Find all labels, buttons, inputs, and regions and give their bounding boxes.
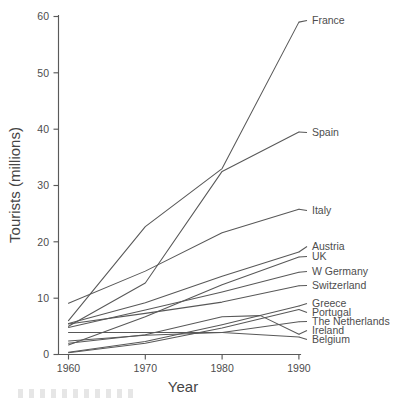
- tourists-line-chart: 0 10 20 30 40 50 60 1960 1970 1980 1990 …: [0, 0, 398, 403]
- series-line-spain: [69, 132, 299, 326]
- axis-lines: [59, 16, 301, 355]
- x-tick-labels: 1960 1970 1980 1990: [57, 362, 311, 374]
- series-line-france: [69, 22, 299, 321]
- scan-artifact: [18, 389, 138, 398]
- leader-line-spain: [299, 132, 307, 133]
- y-tick-label: 40: [37, 123, 49, 135]
- series-label-w-germany: W Germany: [312, 265, 369, 277]
- y-tick-label: 0: [43, 348, 49, 360]
- y-tick-label: 50: [37, 67, 49, 79]
- y-tick-label: 10: [37, 292, 49, 304]
- x-axis-title: Year: [168, 378, 198, 395]
- leader-line-france: [299, 21, 307, 23]
- leader-line-greece: [299, 304, 307, 307]
- chart-canvas: 0 10 20 30 40 50 60 1960 1970 1980 1990 …: [0, 0, 398, 403]
- series-layer: [69, 21, 308, 353]
- leader-line-portugal: [299, 309, 307, 312]
- series-labels-layer: FranceSpainItalyAustriaUKW GermanySwitze…: [312, 14, 390, 345]
- series-line-austria: [69, 252, 299, 324]
- series-label-uk: UK: [312, 250, 327, 262]
- series-line-greece: [69, 306, 299, 352]
- series-line-portugal: [69, 309, 299, 352]
- leader-line-ireland: [299, 331, 307, 335]
- series-label-switzerland: Switzerland: [312, 279, 366, 291]
- leader-line-italy: [299, 209, 307, 210]
- x-tick-label: 1980: [210, 362, 234, 374]
- y-axis-title: Tourists (millions): [6, 127, 23, 243]
- leader-line-uk: [299, 257, 307, 258]
- series-label-france: France: [312, 14, 345, 26]
- series-label-spain: Spain: [312, 126, 339, 138]
- leader-line-austria: [299, 247, 307, 252]
- series-label-belgium: Belgium: [312, 333, 350, 345]
- series-label-italy: Italy: [312, 204, 332, 216]
- x-axis-ticks: [69, 355, 299, 360]
- leader-line-belgium: [299, 337, 307, 339]
- y-tick-label: 30: [37, 179, 49, 191]
- y-tick-labels: 0 10 20 30 40 50 60: [37, 10, 49, 360]
- x-tick-label: 1990: [287, 362, 311, 374]
- x-tick-label: 1960: [57, 362, 81, 374]
- y-tick-label: 60: [37, 10, 49, 22]
- y-tick-label: 20: [37, 236, 49, 248]
- leader-line-w-germany: [299, 272, 307, 273]
- x-tick-label: 1970: [134, 362, 158, 374]
- y-axis-ticks: [54, 17, 59, 355]
- series-line-the-netherlands: [69, 322, 299, 341]
